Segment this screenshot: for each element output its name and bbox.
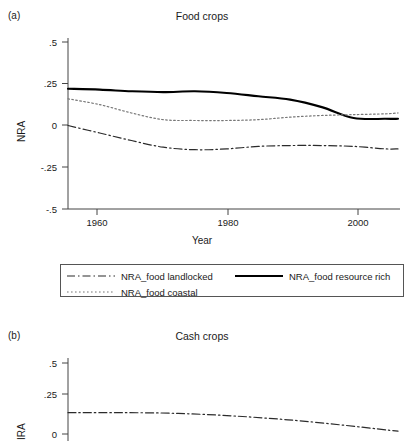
y-tick-label: -.5 xyxy=(46,204,57,215)
y-tick-label: .5 xyxy=(49,358,57,369)
legend: NRA_food landlocked NRA_food resource ri… xyxy=(60,264,404,297)
data-series-group-a xyxy=(68,89,398,150)
legend-key-dash-dot-icon xyxy=(67,271,115,281)
legend-entry-coastal: NRA_food coastal xyxy=(67,287,235,298)
y-tick-label: 0 xyxy=(52,429,57,440)
series-line xyxy=(68,89,398,119)
y-tick-label: .25 xyxy=(44,389,57,400)
panel-cash-crops: (b) Cash crops IRA .5 .25 0 xyxy=(0,310,404,441)
x-tick-label: 1960 xyxy=(86,217,107,228)
panel-food-crops: (a) Food crops NRA Year .5 .25 0 -.25 -.… xyxy=(0,0,404,310)
plot-area-food-crops: .5 .25 0 -.25 -.5 1960 1980 2000 xyxy=(0,0,404,260)
y-tick-label: -.25 xyxy=(41,162,57,173)
series-line xyxy=(68,413,398,432)
legend-key-solid-icon xyxy=(235,271,283,281)
data-series-group-b xyxy=(68,413,398,432)
legend-row-1: NRA_food landlocked NRA_food resource ri… xyxy=(67,268,397,284)
x-ticks-a: 1960 1980 2000 xyxy=(86,209,368,228)
plot-area-cash-crops: .5 .25 0 xyxy=(0,310,404,441)
x-tick-label: 2000 xyxy=(347,217,368,228)
legend-label-resource-rich: NRA_food resource rich xyxy=(289,271,390,282)
legend-key-dotted-icon xyxy=(67,287,115,297)
legend-entry-resource-rich: NRA_food resource rich xyxy=(235,271,390,282)
y-tick-label: .5 xyxy=(49,37,57,48)
y-ticks-b: .5 .25 0 xyxy=(44,358,68,440)
y-tick-label: 0 xyxy=(52,120,57,131)
legend-row-2: NRA_food coastal xyxy=(67,284,397,300)
y-ticks-a: .5 .25 0 -.25 -.5 xyxy=(41,37,68,215)
legend-entry-landlocked: NRA_food landlocked xyxy=(67,271,235,282)
x-tick-label: 1980 xyxy=(217,217,238,228)
series-line xyxy=(68,126,398,150)
legend-label-coastal: NRA_food coastal xyxy=(121,287,198,298)
legend-label-landlocked: NRA_food landlocked xyxy=(121,271,213,282)
y-tick-label: .25 xyxy=(44,78,57,89)
